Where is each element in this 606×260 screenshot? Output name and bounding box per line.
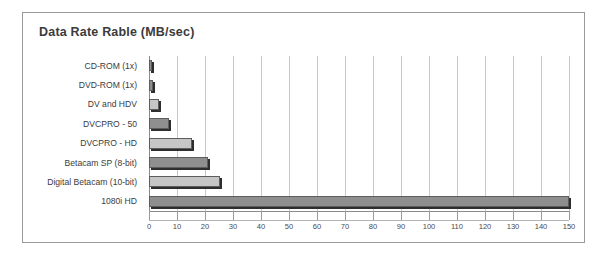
axis-tick-10 [177,211,178,220]
category-label-1: DVD-ROM (1x) [79,80,137,90]
axis-tick-label-20: 20 [201,222,209,231]
axis-tick-40 [261,211,262,220]
axis-tick-label-100: 100 [423,222,436,231]
plot-area [149,56,569,211]
axis-tick-label-10: 10 [173,222,181,231]
axis-tick-140 [541,211,542,220]
axis-tick-110 [457,211,458,220]
axis-tick-label-120: 120 [479,222,492,231]
category-label-6: Digital Betacam (10-bit) [47,177,137,187]
axis-tick-label-130: 130 [507,222,520,231]
bar-row [149,156,569,170]
axis-tick-100 [429,211,430,220]
axis-tick-70 [345,211,346,220]
axis-rule-bottom [149,220,569,221]
axis-tick-label-70: 70 [341,222,349,231]
axis-tick-label-110: 110 [451,222,463,231]
axis-tick-0 [149,211,150,220]
bar-row [149,136,569,150]
axis-tick-label-30: 30 [229,222,237,231]
bar-row [149,59,569,73]
bar-row [149,97,569,111]
axis-tick-30 [233,211,234,220]
value-axis: 0102030405060708090100110120130140150 [149,211,569,241]
category-label-0: CD-ROM (1x) [84,61,137,71]
axis-rule-top [149,211,569,212]
axis-tick-120 [485,211,486,220]
axis-tick-label-150: 150 [563,222,576,231]
category-label-2: DV and HDV [88,99,137,109]
axis-tick-80 [373,211,374,220]
bar-dvcpro-hd [149,138,192,149]
axis-tick-label-0: 0 [147,222,151,231]
bar-dv-and-hdv [149,99,159,110]
axis-tick-label-40: 40 [257,222,265,231]
axis-tick-60 [317,211,318,220]
category-axis-labels: CD-ROM (1x)DVD-ROM (1x)DV and HDVDVCPRO … [23,56,143,211]
chart-title: Data Rate Rable (MB/sec) [39,25,195,39]
bar-row [149,78,569,92]
category-label-5: Betacam SP (8-bit) [65,158,137,168]
axis-tick-label-80: 80 [369,222,377,231]
bar-digital-betacam-10-bit [149,176,220,187]
axis-tick-130 [513,211,514,220]
chart-panel: Data Rate Rable (MB/sec) CD-ROM (1x)DVD-… [22,12,585,243]
axis-tick-90 [401,211,402,220]
bar-cd-rom-1x [149,60,152,71]
bar-row [149,175,569,189]
bar-1080i-hd [149,196,569,207]
axis-tick-label-140: 140 [535,222,548,231]
chart-screenshot: Data Rate Rable (MB/sec) CD-ROM (1x)DVD-… [0,0,606,260]
category-label-3: DVCPRO - 50 [83,119,137,129]
axis-tick-label-50: 50 [285,222,293,231]
axis-tick-label-60: 60 [313,222,321,231]
bar-betacam-sp-8-bit [149,157,208,168]
axis-tick-20 [205,211,206,220]
category-label-4: DVCPRO - HD [80,138,137,148]
axis-tick-150 [569,211,570,220]
axis-tick-50 [289,211,290,220]
bar-dvcpro-50 [149,118,169,129]
bar-series [149,56,569,211]
bar-row [149,194,569,208]
axis-tick-label-90: 90 [397,222,405,231]
gridline-150 [569,56,570,211]
bar-row [149,117,569,131]
bar-dvd-rom-1x [149,80,153,91]
category-label-7: 1080i HD [101,196,137,206]
